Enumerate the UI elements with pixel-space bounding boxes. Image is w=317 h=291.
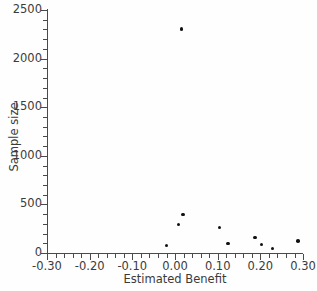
data-point xyxy=(165,244,169,248)
data-point xyxy=(253,236,257,240)
y-tick-label: 500 xyxy=(0,198,42,210)
x-tick-minor xyxy=(73,254,74,258)
y-tick-minor xyxy=(43,20,47,21)
y-axis-title: Sample size xyxy=(7,87,21,187)
y-tick-label: 0 xyxy=(0,247,42,259)
x-tick-minor xyxy=(56,254,57,258)
data-point xyxy=(181,213,185,217)
y-tick-minor xyxy=(43,127,47,128)
x-tick-minor xyxy=(167,254,168,258)
x-tick-minor xyxy=(192,254,193,258)
y-tick-minor xyxy=(43,195,47,196)
y-tick-minor xyxy=(43,243,47,244)
x-tick-minor xyxy=(64,254,65,258)
x-tick-minor xyxy=(252,254,253,258)
y-tick-minor xyxy=(43,29,47,30)
data-point xyxy=(271,247,275,251)
x-tick-minor xyxy=(158,254,159,258)
scatter-plot-figure: 05001000150020002500 -0.30-0.20-0.100.00… xyxy=(0,0,317,291)
x-tick-minor xyxy=(149,254,150,258)
data-point xyxy=(260,243,264,247)
y-tick-minor xyxy=(43,49,47,50)
x-tick-label: 0.30 xyxy=(278,261,317,273)
x-tick-minor xyxy=(295,254,296,258)
x-axis-title: Estimated Benefit xyxy=(47,272,303,286)
x-tick-minor xyxy=(235,254,236,258)
x-tick-minor xyxy=(115,254,116,258)
y-tick-minor xyxy=(43,98,47,99)
y-tick-minor xyxy=(43,136,47,137)
y-tick-minor xyxy=(43,214,47,215)
x-tick-minor xyxy=(277,254,278,258)
x-tick-minor xyxy=(98,254,99,258)
y-tick-minor xyxy=(43,185,47,186)
x-tick-minor xyxy=(81,254,82,258)
y-axis-line xyxy=(47,9,48,254)
x-tick-minor xyxy=(226,254,227,258)
x-tick-minor xyxy=(201,254,202,258)
x-tick-minor xyxy=(107,254,108,258)
y-tick-label: 2500 xyxy=(0,4,42,16)
y-tick-minor xyxy=(43,88,47,89)
x-tick-minor xyxy=(243,254,244,258)
x-tick-minor xyxy=(209,254,210,258)
y-tick-minor xyxy=(43,224,47,225)
y-tick-minor xyxy=(43,78,47,79)
x-tick-minor xyxy=(141,254,142,258)
data-point xyxy=(226,242,230,246)
y-tick-minor xyxy=(43,68,47,69)
y-tick-minor xyxy=(43,146,47,147)
y-tick-minor xyxy=(43,166,47,167)
data-point xyxy=(180,27,184,31)
y-tick-minor xyxy=(43,234,47,235)
y-tick-minor xyxy=(43,117,47,118)
x-tick-minor xyxy=(269,254,270,258)
x-tick-minor xyxy=(286,254,287,258)
x-tick-minor xyxy=(184,254,185,258)
y-tick-minor xyxy=(43,175,47,176)
data-point xyxy=(296,239,300,243)
y-tick-minor xyxy=(43,39,47,40)
y-tick-label: 2000 xyxy=(0,53,42,65)
data-point xyxy=(218,226,222,230)
data-point xyxy=(177,223,181,227)
x-tick-minor xyxy=(124,254,125,258)
